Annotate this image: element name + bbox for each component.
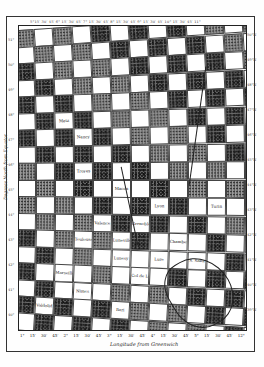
grid-cell xyxy=(92,282,112,301)
right-latitude-ticks: 50°N49°N48°N47°N46°N45°N44°N43°N42°N41°N… xyxy=(247,28,256,328)
grid-cell xyxy=(55,145,74,163)
latitude-tick: 49°N xyxy=(247,58,256,62)
grid-cell: Lunesy xyxy=(111,249,131,268)
grid-cell xyxy=(93,197,112,215)
grid-cell xyxy=(74,179,93,197)
latitude-tick: 49° xyxy=(8,88,14,92)
grid-cell xyxy=(73,111,93,130)
place-label: Lunesy xyxy=(112,255,129,261)
grid-cell: Turin xyxy=(207,198,226,216)
grid-cell: Luneville xyxy=(112,231,131,249)
grid-cell xyxy=(129,319,149,331)
place-label: Nimes xyxy=(74,288,91,294)
grid-cell xyxy=(169,126,188,144)
grid-cell xyxy=(73,265,93,284)
grid-cell xyxy=(148,55,168,74)
grid-cell xyxy=(72,316,92,331)
grid-cell xyxy=(18,229,36,247)
latitude-tick: 45°N xyxy=(247,158,256,162)
grid-cell xyxy=(92,248,112,267)
latitude-tick: 46°N xyxy=(247,133,256,137)
latitude-tick: 48° xyxy=(8,113,14,117)
grid-cell xyxy=(150,144,169,162)
longitude-tick: 15′ xyxy=(117,333,123,339)
grid-cell xyxy=(226,125,245,143)
grid-cell xyxy=(55,196,74,214)
longitude-tick: 15′ xyxy=(160,333,166,339)
latitude-tick: 50°N xyxy=(247,33,256,37)
grid-cell xyxy=(36,163,55,181)
longitude-tick: 5° xyxy=(194,333,199,339)
y-axis-label: Degrees North from Equator xyxy=(3,134,8,200)
grid-cell xyxy=(169,180,188,198)
grid-cell xyxy=(92,76,112,95)
grid-cell xyxy=(166,25,186,38)
grid-cell xyxy=(111,266,131,285)
longitude-tick: 45′ xyxy=(96,333,102,339)
grid-cell xyxy=(206,234,225,252)
grid-cell xyxy=(91,41,111,60)
longitude-tick: 45′ xyxy=(52,333,58,339)
grid-cell xyxy=(74,196,93,214)
latitude-tick: 43°N xyxy=(247,208,256,212)
grid-cell xyxy=(131,232,150,250)
longitude-tick: 30′ xyxy=(172,333,178,339)
longitude-tick: 30′ xyxy=(215,333,221,339)
place-label: Lure xyxy=(150,256,167,262)
map-area: MetzNancyTroyesMaconLyonTurinValenceGren… xyxy=(18,25,247,331)
grid-cell xyxy=(93,128,112,146)
place-label: Bari xyxy=(112,307,129,313)
grid-cell xyxy=(206,107,226,126)
grid-cell xyxy=(35,246,55,265)
grid-cell xyxy=(130,74,150,93)
grid-cell xyxy=(185,25,205,36)
grid-cell xyxy=(92,110,112,129)
grid-cell xyxy=(129,56,149,75)
grid-cell xyxy=(18,295,35,314)
grid-cell xyxy=(148,320,168,331)
grid-cell xyxy=(18,262,36,281)
grid-cell xyxy=(18,312,35,331)
grid-cell: Lyon xyxy=(150,197,169,215)
grid-cell xyxy=(35,112,55,131)
grid-cell xyxy=(226,143,245,161)
grid-cell xyxy=(206,70,226,89)
grid-cell xyxy=(150,126,169,144)
grid-cell xyxy=(168,72,188,91)
longitude-tick: 30′ xyxy=(85,333,91,339)
grid-cell xyxy=(148,303,168,322)
grid-cell xyxy=(186,35,206,54)
latitude-tick: 47° xyxy=(8,138,14,142)
grid-cell xyxy=(91,300,111,319)
grid-cell xyxy=(18,163,36,181)
latitude-tick: 39°N xyxy=(247,308,256,312)
grid-cell xyxy=(206,89,226,108)
place-label: Chambery xyxy=(170,239,187,244)
grid-cell xyxy=(109,25,129,42)
latitude-tick: 44°N xyxy=(247,183,256,187)
grid-cell xyxy=(168,90,188,109)
grid-cell xyxy=(18,129,36,147)
grid-cell xyxy=(91,58,111,77)
grid-cell xyxy=(168,108,188,127)
grid-cell xyxy=(90,25,110,43)
grid-cell xyxy=(112,145,131,163)
grid-cell xyxy=(54,77,74,96)
longitude-tick: 15′ xyxy=(30,333,36,339)
grid-cell xyxy=(224,325,244,331)
grid-cell xyxy=(130,109,150,128)
grid-cell xyxy=(188,197,207,215)
grid-cell: Troyes xyxy=(74,162,93,180)
grid-cell: Valdolid xyxy=(34,296,54,315)
grid-cell xyxy=(53,26,73,45)
grid-cell xyxy=(18,196,36,214)
grid-cell xyxy=(111,75,131,94)
grid-cell xyxy=(226,180,245,198)
grid-cell xyxy=(74,145,93,163)
grid-cell: Nancy xyxy=(74,128,93,146)
grid-cell: Nimes xyxy=(73,282,93,301)
grid-cell xyxy=(93,179,112,197)
place-label: Turin xyxy=(208,204,225,209)
grid-cell xyxy=(147,25,167,39)
latitude-tick: 43° xyxy=(8,238,14,242)
